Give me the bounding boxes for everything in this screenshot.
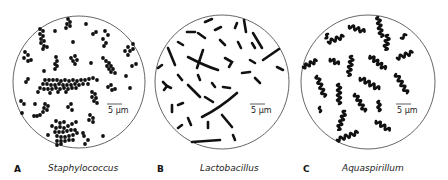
coccus-cell (48, 91, 52, 95)
coccus-cell (63, 78, 67, 82)
bacteria-morphology-figure: 5 μm 5 μm 5 μm A Staphylococcus B Lactob… (0, 0, 448, 180)
coccus-cell (32, 114, 36, 118)
coccus-cell (95, 101, 99, 105)
coccus-cell (134, 62, 138, 66)
coccus-cell (64, 26, 68, 30)
organism-name-a: Staphylococcus (48, 163, 118, 173)
coccus-cell (45, 108, 49, 112)
bacillus-cell (178, 103, 183, 105)
coccus-cell (89, 61, 93, 65)
coccus-cell (109, 70, 113, 74)
coccus-cell (42, 69, 46, 73)
coccus-cell (56, 90, 60, 94)
coccus-cell (68, 24, 72, 28)
figure-canvas (0, 0, 448, 180)
coccus-cell (67, 79, 71, 83)
bacillus-cell (198, 75, 200, 80)
panel-a-field (13, 16, 145, 148)
bacillus-cell (242, 72, 250, 73)
coccus-cell (113, 71, 117, 75)
coccus-cell (70, 86, 74, 90)
coccus-cell (87, 118, 91, 122)
coccus-cell (91, 116, 95, 120)
coccus-cell (66, 124, 70, 128)
coccus-cell (55, 143, 59, 147)
coccus-cell (86, 138, 90, 142)
coccus-cell (91, 120, 95, 124)
coccus-cell (29, 58, 33, 62)
coccus-cell (41, 47, 45, 51)
coccus-cell (45, 45, 49, 49)
coccus-cell (39, 41, 43, 45)
panel-label-a: A (14, 164, 21, 174)
coccus-cell (53, 67, 57, 71)
coccus-cell (73, 54, 77, 58)
coccus-cell (65, 83, 69, 87)
coccus-cell (73, 82, 77, 86)
coccus-cell (87, 77, 91, 81)
scale-label-a: 5 μm (108, 106, 129, 115)
coccus-cell (55, 78, 59, 82)
coccus-cell (43, 78, 47, 82)
coccus-cell (101, 37, 105, 41)
coccus-cell (66, 105, 70, 109)
coccus-cell (71, 78, 75, 82)
coccus-cell (63, 139, 67, 143)
coccus-cell (51, 78, 55, 82)
coccus-cell (101, 56, 105, 60)
coccus-cell (81, 82, 85, 86)
coccus-cell (126, 53, 130, 57)
coccus-cell (50, 87, 54, 91)
coccus-cell (95, 78, 99, 82)
coccus-cell (59, 142, 63, 146)
coccus-cell (42, 87, 46, 91)
coccus-cell (57, 130, 61, 134)
coccus-cell (33, 102, 37, 106)
coccus-cell (83, 142, 87, 146)
coccus-cell (41, 29, 45, 33)
coccus-cell (94, 30, 98, 34)
microscope-field-b (155, 15, 289, 149)
coccus-cell (38, 86, 42, 90)
coccus-cell (23, 50, 27, 54)
coccus-cell (19, 99, 23, 103)
coccus-cell (26, 53, 30, 57)
coccus-cell (67, 134, 71, 138)
coccus-cell (71, 133, 75, 137)
spirillum-cell (319, 107, 321, 112)
coccus-cell (103, 29, 107, 33)
coccus-cell (82, 134, 86, 138)
coccus-cell (69, 128, 73, 132)
coccus-cell (22, 56, 26, 60)
coccus-cell (86, 82, 90, 86)
coccus-cell (84, 22, 88, 26)
coccus-cell (54, 86, 58, 90)
panel-label-c: C (303, 164, 310, 174)
coccus-cell (54, 119, 58, 123)
bacillus-cell (233, 135, 235, 140)
coccus-cell (64, 90, 68, 94)
coccus-cell (70, 122, 74, 126)
coccus-cell (26, 77, 30, 81)
coccus-cell (61, 130, 65, 134)
coccus-cell (41, 82, 45, 86)
coccus-cell (36, 90, 40, 94)
coccus-cell (54, 126, 58, 130)
coccus-cell (123, 49, 127, 53)
bacillus-cell (235, 23, 237, 28)
coccus-cell (88, 113, 92, 117)
coccus-cell (70, 108, 74, 112)
panel-c-field (301, 15, 435, 149)
coccus-cell (79, 78, 83, 82)
coccus-cell (128, 86, 132, 90)
bacillus-cell (223, 87, 230, 88)
coccus-cell (113, 87, 117, 91)
coccus-cell (75, 131, 79, 135)
coccus-cell (67, 138, 71, 142)
coccus-cell (83, 78, 87, 82)
coccus-cell (73, 62, 77, 66)
coccus-cell (55, 134, 59, 138)
coccus-cell (77, 83, 81, 87)
coccus-cell (126, 45, 130, 49)
coccus-cell (46, 87, 50, 91)
